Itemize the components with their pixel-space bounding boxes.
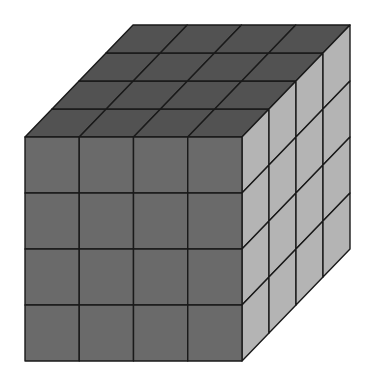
front-cell bbox=[188, 305, 242, 361]
front-cell bbox=[79, 193, 133, 249]
front-cell bbox=[188, 193, 242, 249]
front-cell bbox=[25, 193, 79, 249]
cube-diagram bbox=[0, 0, 378, 386]
front-cell bbox=[79, 137, 133, 193]
front-cell bbox=[79, 249, 133, 305]
cube-figure bbox=[0, 0, 378, 386]
front-cell bbox=[188, 249, 242, 305]
front-cell bbox=[188, 137, 242, 193]
front-cell bbox=[25, 249, 79, 305]
front-cell bbox=[79, 305, 133, 361]
front-cell bbox=[134, 193, 188, 249]
front-cell bbox=[134, 249, 188, 305]
front-cell bbox=[134, 137, 188, 193]
front-cell bbox=[134, 305, 188, 361]
front-cell bbox=[25, 305, 79, 361]
front-face bbox=[25, 137, 242, 361]
front-cell bbox=[25, 137, 79, 193]
